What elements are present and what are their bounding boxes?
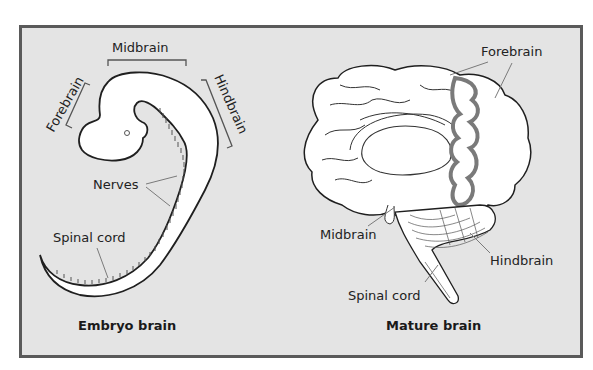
- mature-label-forebrain: Forebrain: [481, 44, 542, 59]
- mature-label-hindbrain: Hindbrain: [490, 253, 553, 268]
- mature-label-midbrain: Midbrain: [320, 227, 377, 242]
- embryo-label-midbrain: Midbrain: [112, 40, 169, 55]
- embryo-brain-caption: Embryo brain: [78, 318, 176, 333]
- embryo-label-spinal-cord: Spinal cord: [53, 230, 126, 245]
- embryo-label-nerves: Nerves: [93, 177, 139, 192]
- mature-label-spinal-cord: Spinal cord: [348, 288, 421, 303]
- mature-brain-caption: Mature brain: [386, 318, 481, 333]
